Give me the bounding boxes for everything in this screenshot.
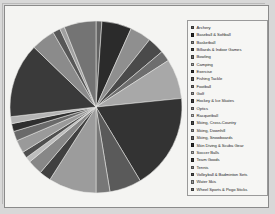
legend-swatch-icon: [191, 92, 194, 95]
legend-item-label: Exercise: [197, 68, 213, 75]
legend-swatch-icon: [191, 70, 194, 73]
legend-item-label: Bowling: [197, 53, 211, 60]
legend-item-label: Optics: [197, 105, 209, 112]
legend-item[interactable]: Exercise: [191, 68, 265, 75]
legend-item[interactable]: Hockey & Ice Skates: [191, 97, 265, 104]
legend-swatch-icon: [191, 85, 194, 88]
legend-item[interactable]: Water Skis: [191, 178, 265, 185]
legend-item[interactable]: Tennis: [191, 164, 265, 171]
legend-item[interactable]: Optics: [191, 105, 265, 112]
legend-swatch-icon: [191, 180, 194, 183]
legend-item-label: Hockey & Ice Skates: [197, 97, 234, 104]
legend-item[interactable]: Basketball: [191, 39, 265, 46]
legend-item-label: Basketball: [197, 39, 216, 46]
legend-swatch-icon: [191, 41, 194, 44]
legend-item-label: Skiing, Cross-Country: [197, 119, 236, 126]
legend-swatch-icon: [191, 33, 194, 36]
legend-item[interactable]: Archery: [191, 24, 265, 31]
legend-item[interactable]: Camping: [191, 61, 265, 68]
legend-item[interactable]: Skiing, Snowboards: [191, 134, 265, 141]
legend-item-label: Camping: [197, 61, 213, 68]
legend-item-label: Skin Diving & Scuba Gear: [197, 142, 244, 149]
legend-item-label: Skiing, Downhill: [197, 127, 226, 134]
legend-item-label: Billiards & Indoor Games: [197, 46, 242, 53]
legend-item[interactable]: Bowling: [191, 53, 265, 60]
legend-item-label: Baseball & Softball: [197, 31, 231, 38]
legend-swatch-icon: [191, 129, 194, 132]
legend-item[interactable]: Golf: [191, 90, 265, 97]
legend-item-label: Fishing Tackle: [197, 75, 223, 82]
legend-swatch-icon: [191, 143, 194, 146]
pie-chart[interactable]: [9, 18, 183, 196]
legend-item[interactable]: Skiing, Cross-Country: [191, 119, 265, 126]
legend-item[interactable]: Skin Diving & Scuba Gear: [191, 142, 265, 149]
legend-item-label: Skiing, Snowboards: [197, 134, 233, 141]
legend-swatch-icon: [191, 77, 194, 80]
legend-swatch-icon: [191, 55, 194, 58]
legend-swatch-icon: [191, 121, 194, 124]
legend-item[interactable]: Soccer Balls: [191, 149, 265, 156]
legend-item-label: Tennis: [197, 164, 209, 171]
legend-item[interactable]: Skiing, Downhill: [191, 127, 265, 134]
legend-item-label: Golf: [197, 90, 204, 97]
legend-item[interactable]: Billiards & Indoor Games: [191, 46, 265, 53]
legend-item[interactable]: Fishing Tackle: [191, 75, 265, 82]
legend-item[interactable]: Volleyball & Badminton Sets: [191, 171, 265, 178]
chart-legend[interactable]: ArcheryBaseball & SoftballBasketballBill…: [187, 20, 268, 196]
legend-item-label: Volleyball & Badminton Sets: [197, 171, 248, 178]
legend-swatch-icon: [191, 166, 194, 169]
legend-item-label: Water Skis: [197, 178, 216, 185]
legend-swatch-icon: [191, 158, 194, 161]
legend-swatch-icon: [191, 114, 194, 117]
legend-item[interactable]: Racquetball: [191, 112, 265, 119]
legend-item-label: Team Goods: [197, 156, 220, 163]
legend-swatch-icon: [191, 151, 194, 154]
legend-swatch-icon: [191, 173, 194, 176]
legend-item[interactable]: Football: [191, 83, 265, 90]
legend-swatch-icon: [191, 188, 194, 191]
legend-item[interactable]: Baseball & Softball: [191, 31, 265, 38]
legend-item-label: Archery: [197, 24, 211, 31]
legend-item-label: Football: [197, 83, 211, 90]
pie-chart-plot-area: [5, 6, 187, 207]
legend-swatch-icon: [191, 26, 194, 29]
legend-swatch-icon: [191, 63, 194, 66]
chart-frame: ArcheryBaseball & SoftballBasketballBill…: [4, 5, 269, 208]
legend-swatch-icon: [191, 136, 194, 139]
legend-item[interactable]: Wheel Sports & Pogo Sticks: [191, 186, 265, 193]
legend-item[interactable]: Team Goods: [191, 156, 265, 163]
legend-swatch-icon: [191, 48, 194, 51]
legend-item-label: Wheel Sports & Pogo Sticks: [197, 186, 248, 193]
legend-swatch-icon: [191, 99, 194, 102]
legend-swatch-icon: [191, 107, 194, 110]
legend-item-label: Soccer Balls: [197, 149, 220, 156]
legend-item-label: Racquetball: [197, 112, 218, 119]
